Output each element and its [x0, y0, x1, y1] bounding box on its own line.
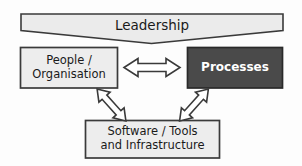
people-organisation-box-shape — [21, 48, 118, 89]
diagram-shapes-layer — [0, 0, 302, 166]
diagram-canvas: Leadership People / Organisation Process… — [0, 0, 302, 166]
software-tools-box-shape — [86, 121, 220, 159]
people-processes-arrow-shape — [124, 59, 180, 77]
leadership-banner-shape — [21, 14, 283, 44]
processes-box-shape — [188, 48, 283, 89]
